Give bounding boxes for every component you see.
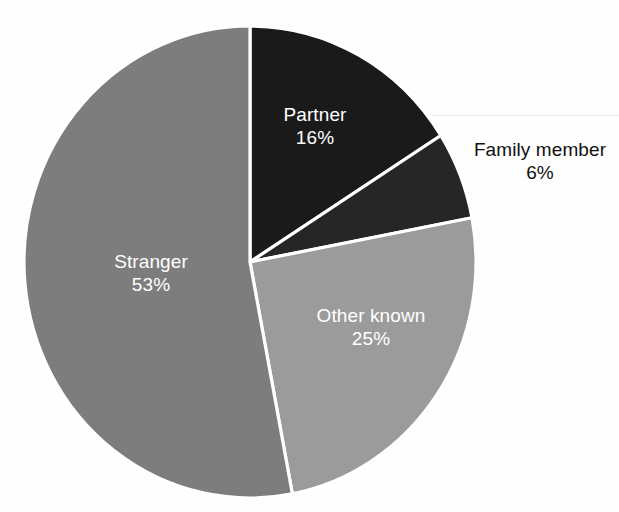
scan-artifact-line-bottom (0, 506, 619, 507)
pie-chart: Partner 16% Family member 6% Stranger 53… (0, 0, 619, 512)
pie-chart-canvas (0, 0, 619, 512)
scan-artifact-line (432, 115, 619, 116)
pie-slice-group (24, 26, 476, 498)
